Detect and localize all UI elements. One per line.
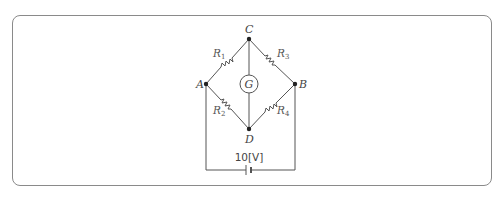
galvanometer-label: G [245,78,254,91]
r3-label: R3 [276,47,289,61]
resistor-r3 [249,39,295,84]
node-c-label: C [245,23,254,36]
resistor-r4 [249,84,295,129]
node-d-label: D [244,133,254,146]
r1-label: R1 [212,47,225,61]
node-a-label: A [195,78,204,91]
r2-label: R2 [212,104,225,118]
node-b-label: B [298,78,307,91]
r4-label: R4 [276,104,290,118]
node-a-dot [204,82,208,86]
node-b-dot [293,82,297,86]
wheatstone-bridge-circuit: A B C D R1 R3 R2 R4 G 10[V] [0,0,502,203]
node-c-dot [247,37,251,41]
node-d-dot [247,127,251,131]
battery-voltage-label: 10[V] [235,151,264,163]
